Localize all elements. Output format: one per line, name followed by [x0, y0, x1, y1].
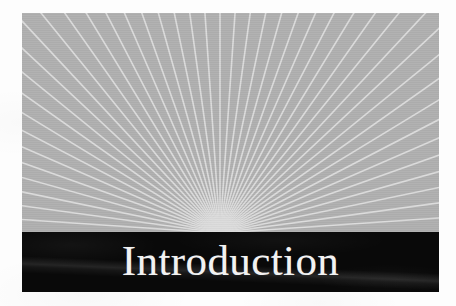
chapter-opener-page: Introduction [0, 0, 456, 306]
chapter-opener-artwork: Introduction [22, 13, 439, 292]
sunburst-rays-graphic [22, 13, 439, 233]
sunburst-field [22, 13, 439, 233]
title-band: Introduction [22, 232, 439, 292]
page-title: Introduction [22, 232, 439, 292]
